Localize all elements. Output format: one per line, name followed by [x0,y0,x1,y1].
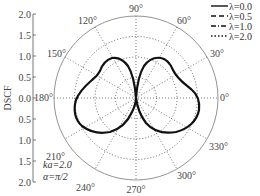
angle-label: 0° [220,92,229,103]
curve-right-lobe [136,58,199,133]
angle-label: 150° [47,48,66,59]
annotation-ka: ka=2.0 [43,159,72,170]
angle-label: 330° [209,141,228,152]
tick-label: 0.5 [19,72,32,83]
angle-label: 60° [177,15,191,26]
parameter-annotation: ka=2.0 α=π/2 [43,159,72,182]
angle-label: 120° [78,15,97,26]
series-curves [75,58,200,133]
tick-label: 1.5 [19,156,32,167]
angle-label: 300° [177,170,196,181]
angle-label: 240° [76,182,95,193]
tick-label: 1.0 [19,51,32,62]
annotation-alpha: α=π/2 [43,171,68,182]
legend-label: λ=2.0 [229,31,252,42]
tick-label: 0.0 [19,93,32,104]
angle-label: 90° [129,3,143,14]
y-axis-label: DSCF [2,85,13,110]
angle-label: 180° [34,92,53,103]
tick-label: 0.5 [19,114,32,125]
polar-chart: 2.0 1.5 1.0 0.5 0.0 0.5 1.0 1.5 2.0 DSCF… [0,0,260,196]
angle-label: 270° [127,184,146,195]
angle-label: 30° [210,48,224,59]
radial-axis: 2.0 1.5 1.0 0.5 0.0 0.5 1.0 1.5 2.0 DSCF [2,9,36,188]
tick-label: 2.0 [19,9,32,20]
curve-left-lobe [75,58,136,133]
tick-label: 1.0 [19,135,32,146]
legend: λ=0.0 λ=0.5 λ=1.0 λ=2.0 [211,1,252,42]
tick-label: 2.0 [19,177,32,188]
tick-label: 1.5 [19,30,32,41]
